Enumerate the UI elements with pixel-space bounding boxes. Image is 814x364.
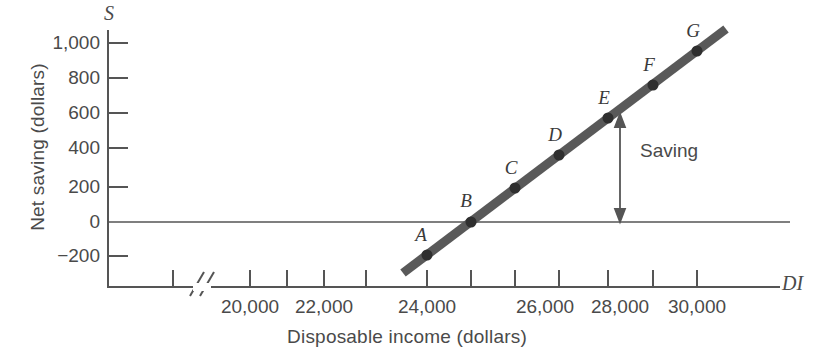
data-point-a <box>422 250 433 261</box>
x-tick-28000: 28,000 <box>591 296 649 318</box>
x-tick-24000: 24,000 <box>398 296 456 318</box>
y-axis-title: Net saving (dollars) <box>27 17 49 277</box>
data-point-b <box>466 217 477 228</box>
y-tick-label: 400 <box>8 137 100 159</box>
x-axis-symbol: DI <box>782 272 803 295</box>
data-point-e <box>603 113 614 124</box>
saving-arrow <box>615 114 625 222</box>
point-label-d: D <box>548 124 562 146</box>
x-tick-30000: 30,000 <box>668 296 726 318</box>
y-tick-200: 200 <box>0 187 100 188</box>
point-label-e: E <box>598 87 610 109</box>
y-tick-label: 1,000 <box>8 32 100 54</box>
y-tick-600: 600 <box>0 113 100 114</box>
point-label-f: F <box>643 54 655 76</box>
point-label-c: C <box>505 157 518 179</box>
y-tick-0: 0 <box>0 222 100 223</box>
y-tick-400: 400 <box>0 148 100 149</box>
data-point-d <box>554 150 565 161</box>
x-tick-20000: 20,000 <box>221 296 279 318</box>
y-tick-800: 800 <box>0 78 100 79</box>
y-tick-label: 0 <box>8 211 100 233</box>
y-tick-label: 600 <box>8 102 100 124</box>
point-label-g: G <box>686 20 700 42</box>
y-tick-label: −200 <box>8 245 100 267</box>
data-point-f <box>648 80 659 91</box>
y-tick-1000: 1,000 <box>0 43 100 44</box>
point-label-a: A <box>415 224 427 246</box>
y-tick-label: 200 <box>8 176 100 198</box>
x-axis-title: Disposable income (dollars) <box>0 326 814 348</box>
saving-annotation-label: Saving <box>640 140 698 162</box>
y-tick-label: 800 <box>8 67 100 89</box>
x-tick-22000: 22,000 <box>295 296 353 318</box>
y-tick-neg200: −200 <box>0 256 100 257</box>
chart-canvas: 1,000 800 600 400 200 0 −200 20,000 22,0… <box>0 0 814 364</box>
x-tick-26000: 26,000 <box>516 296 574 318</box>
x-tick-marks <box>173 270 697 287</box>
y-tick-marks <box>108 43 128 256</box>
point-label-b: B <box>460 190 472 212</box>
data-point-g <box>692 46 703 57</box>
y-axis-symbol: S <box>104 2 114 25</box>
data-point-c <box>510 183 521 194</box>
